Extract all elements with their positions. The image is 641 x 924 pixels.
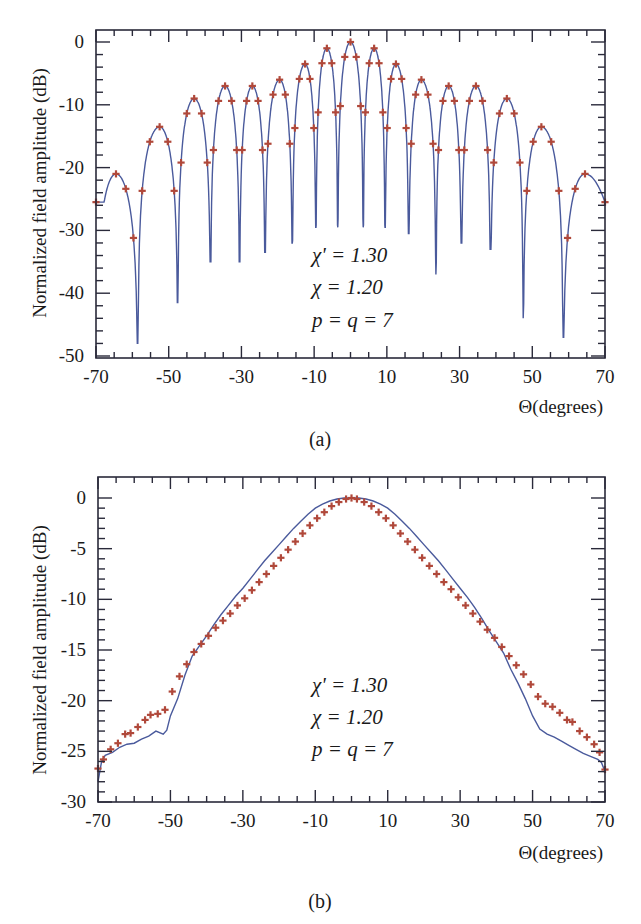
chart-a-y-tick-label: -30 (59, 219, 84, 240)
chart-b-y-tick-label: -5 (70, 538, 86, 559)
chart-a-canvas: -70-50-30-10103050700-10-20-30-40-50 Nor… (0, 0, 641, 462)
chart-b-x-tick-label: -50 (158, 810, 183, 831)
chart-a-caption: (a) (309, 428, 331, 451)
chart-b-y-tick-label: 0 (77, 487, 87, 508)
chart-a-y-axis-label: Normalized field amplitude (dB) (29, 68, 51, 318)
chart-b-caption: (b) (308, 890, 331, 913)
chart-a-y-tick-label: 0 (75, 31, 85, 52)
chart-b-annotation-chi: χ = 1.20 (310, 705, 383, 729)
chart-b-canvas: -70-50-30-10103050700-5-10-15-20-25-30 N… (0, 462, 641, 924)
chart-a-marker-layer (92, 38, 608, 241)
chart-b-x-tick-label: 10 (378, 810, 397, 831)
chart-b-y-tick-label: -20 (61, 690, 86, 711)
chart-b-y-tick-label: -10 (61, 588, 86, 609)
chart-b-marker-layer (94, 494, 608, 773)
chart-a-x-tick-label: 30 (450, 366, 469, 387)
chart-a-axes: -70-50-30-10103050700-10-20-30-40-50 (59, 30, 615, 387)
chart-a-x-tick-label: 50 (523, 366, 542, 387)
figure-a: -70-50-30-10103050700-10-20-30-40-50 Nor… (0, 0, 641, 462)
chart-a-annotation-chi-prime: χ' = 1.30 (310, 243, 388, 267)
chart-b-x-tick-label: -70 (85, 810, 110, 831)
chart-a-x-tick-label: -30 (229, 366, 254, 387)
chart-b-x-tick-label: 30 (451, 810, 470, 831)
chart-a-x-tick-label: 10 (377, 366, 396, 387)
chart-a-x-tick-label: -50 (156, 366, 181, 387)
chart-b-x-tick-label: 50 (523, 810, 542, 831)
figure-b: -70-50-30-10103050700-5-10-15-20-25-30 N… (0, 462, 641, 924)
chart-a-annotation-chi: χ = 1.20 (310, 275, 383, 299)
chart-b-annotation-chi-prime: χ' = 1.30 (310, 673, 388, 697)
chart-b-annotation-pq: p = q = 7 (310, 737, 394, 761)
chart-b-y-tick-label: -25 (61, 740, 86, 761)
chart-a-x-tick-label: -10 (301, 366, 326, 387)
chart-a-x-axis-label: Θ(degrees) (519, 396, 603, 418)
chart-a-y-tick-label: -50 (59, 345, 84, 366)
chart-b-x-tick-label: 70 (596, 810, 615, 831)
chart-a-x-tick-label: -70 (83, 366, 108, 387)
chart-a-y-tick-label: -40 (59, 282, 84, 303)
chart-a-x-tick-label: 70 (596, 366, 615, 387)
chart-b-x-axis-label: Θ(degrees) (519, 842, 603, 864)
chart-a-y-tick-label: -10 (59, 94, 84, 115)
chart-b-y-axis-label: Normalized field amplitude (dB) (29, 525, 51, 775)
chart-b-y-tick-label: -15 (61, 639, 86, 660)
chart-a-annotation-pq: p = q = 7 (310, 308, 394, 332)
chart-b-axes: -70-50-30-10103050700-5-10-15-20-25-30 (61, 477, 615, 831)
chart-b-x-tick-label: -10 (303, 810, 328, 831)
chart-b-x-tick-label: -30 (230, 810, 255, 831)
chart-a-y-tick-label: -20 (59, 157, 84, 178)
chart-b-y-tick-label: -30 (61, 791, 86, 812)
